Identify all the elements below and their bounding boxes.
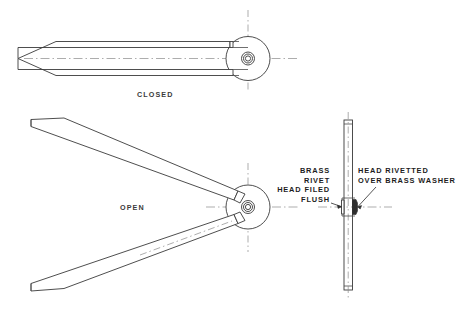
closed-lower-blade — [18, 59, 233, 76]
open-lower-arm — [31, 215, 238, 292]
closed-view: CLOSED — [18, 10, 300, 99]
open-view-label: OPEN — [120, 203, 145, 212]
leader-arrow-rivetted — [358, 206, 362, 209]
side-view-brass-washer — [353, 202, 355, 213]
technical-drawing-canvas: CLOSED O — [0, 0, 472, 309]
open-lower-arm-centerline — [140, 221, 232, 255]
left-note-line-2: RIVET — [304, 176, 330, 185]
side-edge-view — [318, 112, 392, 298]
open-upper-arm — [31, 118, 238, 200]
right-note-line-1: HEAD RIVETTED — [358, 166, 429, 175]
right-note-line-2: OVER BRASS WASHER — [358, 176, 456, 185]
left-note-line-1: BRASS — [300, 166, 330, 175]
drawing-svg: CLOSED O — [0, 0, 472, 309]
side-view-filed-flush-head — [342, 200, 345, 214]
left-note-line-4: FLUSH — [301, 195, 330, 204]
left-note-block: BRASS RIVET HEAD FILED FLUSH — [277, 166, 330, 204]
left-note-line-3: HEAD FILED — [277, 185, 330, 194]
closed-upper-blade — [18, 42, 230, 59]
leader-head-rivetted — [359, 187, 377, 206]
right-note-block: HEAD RIVETTED OVER BRASS WASHER — [358, 166, 456, 185]
leader-arrow-flush — [338, 205, 342, 208]
open-view: OPEN — [31, 118, 300, 291]
closed-upper-blade-shoulder — [230, 42, 233, 48]
closed-view-label: CLOSED — [137, 90, 174, 99]
